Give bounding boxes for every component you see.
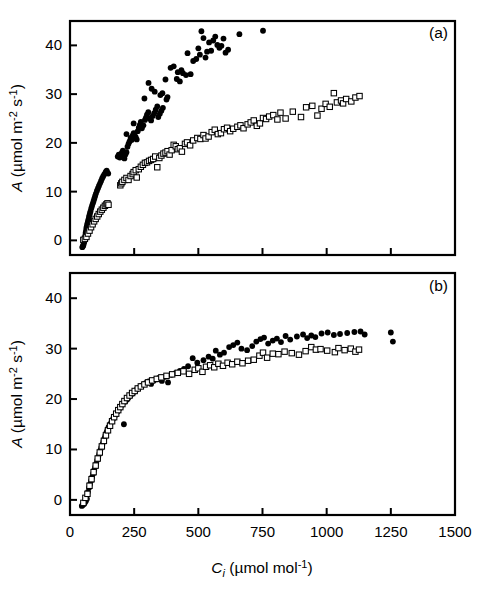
data-point-filled-circle: [294, 334, 300, 340]
data-point-open-square: [175, 370, 180, 375]
data-point-open-square: [240, 361, 245, 366]
y-axis-tick-label: 20: [45, 390, 62, 407]
y-axis-tick-label: 10: [45, 440, 62, 457]
data-point-open-square: [186, 371, 191, 376]
data-point-open-square: [289, 350, 294, 355]
data-point-filled-circle: [145, 109, 151, 115]
data-point-open-square: [245, 358, 250, 363]
data-point-filled-circle: [195, 45, 201, 51]
y-axis-symbol: A: [8, 438, 25, 449]
data-point-open-square: [97, 450, 102, 455]
data-point-open-square: [296, 352, 301, 357]
y-axis-close-paren: ): [8, 340, 25, 345]
data-point-filled-circle: [221, 350, 227, 356]
data-point-filled-circle: [146, 80, 152, 86]
x-axis-tick-label: 750: [250, 523, 275, 540]
data-point-open-square: [101, 438, 106, 443]
data-point-open-square: [324, 348, 329, 353]
data-point-open-square: [134, 175, 139, 180]
data-point-open-square: [87, 483, 92, 488]
data-point-open-square: [257, 121, 262, 126]
series-filled-circles: [79, 28, 265, 250]
data-point-filled-circle: [131, 120, 137, 126]
data-point-filled-circle: [234, 340, 240, 346]
data-point-open-square: [318, 346, 323, 351]
data-point-filled-circle: [239, 346, 245, 352]
y-axis-tick-label: 0: [54, 231, 62, 248]
data-point-filled-circle: [325, 330, 331, 336]
x-axis-units: (µmol mol: [225, 559, 298, 576]
data-point-open-square: [290, 109, 295, 114]
data-point-filled-circle: [105, 171, 111, 177]
data-point-open-square: [179, 149, 184, 154]
data-point-filled-circle: [163, 77, 169, 83]
data-point-filled-circle: [390, 339, 396, 345]
y-axis-exponent-1: -2: [7, 367, 19, 377]
data-point-filled-circle: [152, 89, 158, 95]
y-axis-exponent-2: -1: [7, 345, 19, 355]
data-point-filled-circle: [160, 90, 166, 96]
y-axis-tick-label: 10: [45, 183, 62, 200]
data-point-open-square: [89, 477, 94, 482]
y-axis-tick-label: 30: [45, 85, 62, 102]
data-point-filled-circle: [124, 149, 130, 155]
y-axis-close-paren: ): [8, 84, 25, 89]
data-point-filled-circle: [141, 122, 147, 128]
data-point-filled-circle: [197, 52, 203, 58]
data-point-filled-circle: [337, 331, 343, 337]
data-point-open-square: [357, 93, 362, 98]
x-axis-tick-label: 1500: [438, 523, 471, 540]
y-axis-title-panel-b: A (µmol m-2 s-1): [7, 340, 25, 449]
data-point-filled-circle: [134, 137, 140, 143]
data-point-open-square: [276, 351, 281, 356]
data-point-filled-circle: [171, 63, 177, 69]
x-axis-symbol: C: [211, 559, 223, 576]
panel-a: 010203040(a): [45, 21, 455, 255]
data-point-filled-circle: [225, 47, 231, 53]
data-point-filled-circle: [319, 331, 325, 337]
data-point-open-square: [169, 372, 174, 377]
y-axis-tick-label: 20: [45, 134, 62, 151]
figure-container: 010203040(a) 025050075010001250150001020…: [0, 0, 487, 595]
data-point-filled-circle: [351, 329, 357, 335]
data-point-filled-circle: [362, 332, 368, 338]
data-point-filled-circle: [165, 94, 171, 100]
data-point-filled-circle: [199, 28, 205, 34]
data-point-filled-circle: [185, 50, 191, 56]
x-axis-tick-label: 1250: [374, 523, 407, 540]
data-point-open-square: [235, 359, 240, 364]
data-point-open-square: [343, 96, 348, 101]
data-point-open-square: [270, 351, 275, 356]
data-point-open-square: [315, 113, 320, 118]
data-point-filled-circle: [237, 31, 243, 37]
data-point-filled-circle: [154, 103, 160, 109]
data-point-open-square: [278, 110, 283, 115]
y-axis-units-1: (µmol m: [8, 121, 25, 182]
data-point-open-square: [164, 373, 169, 378]
data-point-open-square: [298, 114, 303, 119]
panel-label-a: (a): [429, 24, 448, 41]
data-point-filled-circle: [188, 71, 194, 77]
data-point-filled-circle: [160, 105, 166, 111]
panel-label-b: (b): [429, 277, 448, 294]
series-filled-circles: [79, 329, 396, 509]
y-axis-tick-label: 40: [45, 36, 62, 53]
x-axis-tick-label: 250: [122, 523, 147, 540]
data-point-filled-circle: [142, 96, 148, 102]
panel-b: 0250500750100012501500010203040(b): [45, 273, 471, 540]
data-point-open-square: [303, 348, 308, 353]
y-axis-title-panel-a: A (µmol m-2 s-1): [7, 84, 25, 193]
data-point-open-square: [85, 491, 90, 496]
data-point-open-square: [310, 103, 315, 108]
data-point-filled-circle: [260, 28, 266, 34]
series-open-squares: [81, 90, 363, 242]
data-point-filled-circle: [201, 357, 207, 363]
data-point-open-square: [159, 375, 164, 380]
x-axis-tick-label: 0: [66, 523, 74, 540]
data-point-filled-circle: [219, 43, 225, 49]
data-point-filled-circle: [388, 330, 394, 336]
data-point-open-square: [251, 118, 256, 123]
x-axis-close-paren: ): [307, 559, 312, 576]
data-point-open-square: [106, 202, 111, 207]
x-axis-tick-label: 1000: [310, 523, 343, 540]
